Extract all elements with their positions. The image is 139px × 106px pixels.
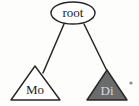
node-label-root: root	[63, 5, 84, 20]
tree-diagram: Mo Di root	[0, 0, 139, 106]
scan-speck-artifact	[129, 81, 132, 84]
node-di[interactable]: Di	[87, 70, 127, 100]
diagram-canvas: Mo Di root	[0, 0, 139, 106]
edge-root-to-di	[84, 24, 107, 71]
edge-group	[43, 24, 107, 73]
node-mo[interactable]: Mo	[11, 66, 60, 100]
node-root[interactable]: root	[51, 2, 95, 24]
edge-root-to-mo	[43, 24, 64, 73]
node-label-mo: Mo	[26, 82, 44, 97]
node-label-di: Di	[101, 83, 114, 98]
